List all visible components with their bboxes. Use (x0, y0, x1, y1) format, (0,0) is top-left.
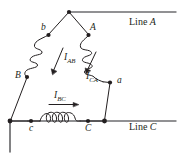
line-a-phase-letter: A (150, 16, 156, 27)
node-dot-a-upper (86, 33, 90, 37)
current-label-ica: ICA (86, 72, 98, 84)
current-subscript-ica: CA (89, 76, 98, 83)
coil-left-winding (25, 36, 48, 77)
line-c-phase-letter: C (150, 121, 157, 132)
branch-top-left-upper (49, 12, 70, 35)
node-dot-apex (67, 10, 71, 14)
node-label-b-lower: b (41, 23, 46, 33)
delta-connection-figure: Line A Line C b A B a c C IAB ICA IBC (0, 0, 178, 153)
current-arrow-iab-shaft (53, 48, 64, 73)
current-subscript-iab: AB (67, 57, 75, 64)
node-label-c-lower: c (29, 124, 33, 134)
node-dot-b-lower (46, 33, 50, 37)
current-arrow-ibc-head (73, 102, 78, 106)
node-label-B-upper: B (15, 71, 21, 81)
branch-bottom-right-lower (105, 83, 111, 121)
node-label-C-upper: C (85, 124, 91, 134)
current-label-iab: IAB (64, 53, 75, 65)
line-a-label: Line A (129, 17, 156, 27)
current-subscript-ibc: BC (57, 95, 66, 102)
node-label-a-lower: a (117, 76, 122, 86)
current-label-ibc: IBC (54, 91, 66, 103)
branch-bottom-left-lower (11, 78, 28, 121)
node-dot-a-lower (108, 80, 112, 84)
branch-top-right-upper (69, 12, 89, 35)
node-dot-B-upper (25, 75, 29, 79)
node-dot-bottom-left (8, 119, 13, 124)
line-c-label: Line C (129, 122, 157, 132)
node-label-a-upper: A (90, 23, 96, 33)
node-dot-bottom-right (102, 119, 107, 124)
